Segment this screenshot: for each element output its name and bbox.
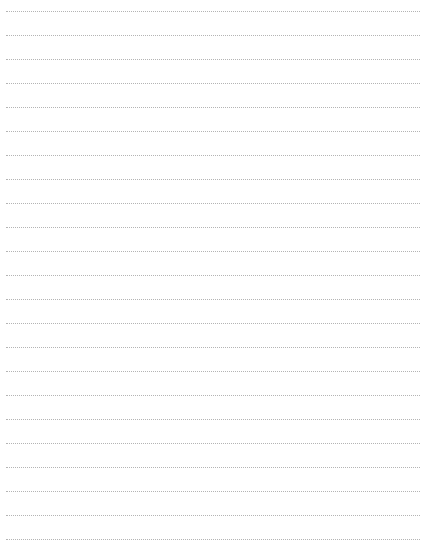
ruled-line [6, 227, 420, 228]
ruled-line [6, 299, 420, 300]
ruled-line [6, 155, 420, 156]
ruled-line [6, 83, 420, 84]
ruled-line [6, 35, 420, 36]
ruled-line [6, 203, 420, 204]
ruled-line [6, 515, 420, 516]
ruled-line [6, 275, 420, 276]
ruled-line [6, 11, 420, 12]
ruled-line [6, 467, 420, 468]
ruled-line [6, 347, 420, 348]
ruled-line [6, 323, 420, 324]
ruled-line [6, 131, 420, 132]
ruled-line [6, 59, 420, 60]
ruled-line [6, 443, 420, 444]
ruled-line [6, 539, 420, 540]
ruled-line [6, 251, 420, 252]
ruled-line [6, 179, 420, 180]
ruled-line [6, 395, 420, 396]
ruled-line [6, 419, 420, 420]
ruled-line [6, 107, 420, 108]
ruled-line [6, 491, 420, 492]
ruled-line [6, 371, 420, 372]
lined-paper-page [0, 0, 427, 549]
